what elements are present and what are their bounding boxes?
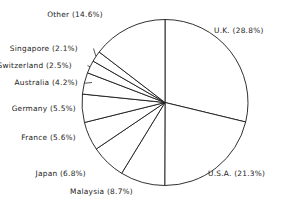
pie-label-germany: Germany (5.5%) bbox=[12, 105, 76, 112]
pie-label-japan: Japan (6.8%) bbox=[35, 170, 86, 177]
pie-label-singapore: Singapore (2.1%) bbox=[10, 45, 78, 52]
pie-slices-group bbox=[82, 20, 248, 186]
pie-label-france: France (5.6%) bbox=[21, 134, 76, 141]
pie-label-malaysia: Malaysia (8.7%) bbox=[70, 188, 133, 195]
pie-label-usa: U.S.A. (21.3%) bbox=[208, 170, 265, 177]
pie-chart-figure: U.K. (28.8%) U.S.A. (21.3%) Malaysia (8.… bbox=[0, 0, 293, 204]
pie-label-switzerland: Switzerland (2.5%) bbox=[0, 62, 72, 69]
leader-line-switzerland bbox=[88, 66, 91, 67]
leader-line-singapore bbox=[94, 49, 96, 57]
pie-label-other: Other (14.6%) bbox=[47, 11, 103, 18]
pie-label-uk: U.K. (28.8%) bbox=[214, 27, 264, 34]
pie-label-australia: Australia (4.2%) bbox=[14, 79, 78, 86]
